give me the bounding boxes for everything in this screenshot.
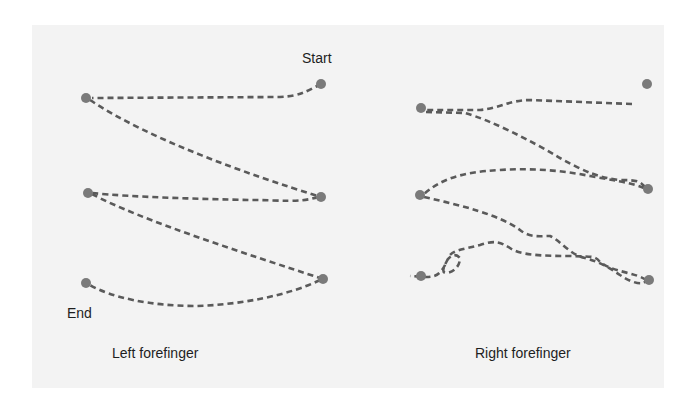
right-path-segment-4 [410,242,646,280]
right-point-2 [643,184,653,194]
left-forefinger-points [81,79,328,288]
trajectory-diagram [0,0,696,400]
right-forefinger-caption: Right forefinger [475,345,571,361]
left-path-segment-2 [90,100,318,196]
right-path-segment-2 [424,169,644,194]
right-forefinger-trajectory [410,100,646,283]
left-forefinger-trajectory [90,84,321,306]
left-end-point [81,278,91,288]
right-point-1 [416,103,426,113]
left-point-1 [81,93,91,103]
left-path-segment-1 [92,84,321,98]
left-forefinger-caption: Left forefinger [112,345,198,361]
right-end-point [416,271,426,281]
left-path-segment-5 [90,280,320,306]
left-path-segment-4 [92,194,320,278]
left-start-point [316,79,326,89]
left-point-4 [318,274,328,284]
right-point-4 [644,275,654,285]
end-label: End [67,305,92,321]
right-path-segment-3 [424,197,646,283]
right-point-3 [415,190,425,200]
right-start-point [642,79,652,89]
left-point-3 [83,188,93,198]
right-path-segment-1b [426,112,645,187]
left-path-segment-3 [92,193,318,201]
right-path-segment-1 [426,100,632,110]
left-point-2 [316,192,326,202]
start-label: Start [302,50,332,66]
